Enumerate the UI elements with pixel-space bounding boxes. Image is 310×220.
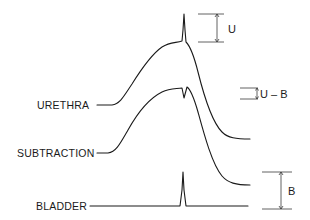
b-label: B: [288, 185, 295, 197]
u-minus-b-label: U – B: [260, 88, 288, 100]
u-label: U: [228, 23, 236, 35]
u-minus-b-measurement: [240, 88, 259, 99]
subtraction-label: SUBTRACTION: [17, 147, 94, 159]
bladder-trace: [90, 172, 248, 206]
bladder-label: BLADDER: [36, 200, 87, 212]
diagram-svg: URETHRA SUBTRACTION BLADDER U U – B B: [0, 0, 310, 220]
u-measurement: [198, 14, 224, 42]
urethra-label: URETHRA: [37, 99, 89, 111]
pressure-trace-diagram: URETHRA SUBTRACTION BLADDER U U – B B: [0, 0, 310, 220]
